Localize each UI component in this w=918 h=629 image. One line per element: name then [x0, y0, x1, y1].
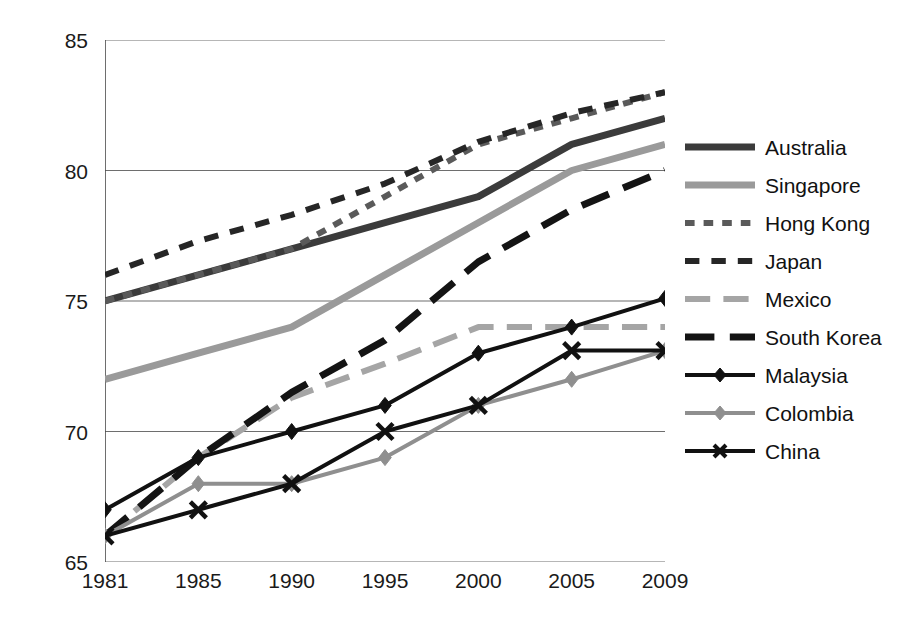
plot-svg — [105, 40, 665, 562]
legend-item-hong-kong[interactable]: Hong Kong — [683, 204, 918, 242]
x-tick-label: 1995 — [362, 570, 409, 591]
y-axis: 8580757065 — [28, 40, 88, 562]
legend-swatch-icon — [683, 442, 757, 460]
legend-item-label: Japan — [765, 251, 822, 272]
y-tick-label: 65 — [30, 552, 88, 573]
x-tick-label: 2000 — [455, 570, 502, 591]
data-point-marker — [285, 424, 297, 440]
legend-item-label: Hong Kong — [765, 213, 870, 234]
x-tick-label: 2009 — [642, 570, 689, 591]
y-tick-label: 80 — [30, 160, 88, 181]
chart-root: 8580757065 1981198519901995200020052009 … — [0, 0, 918, 629]
x-tick-label: 1981 — [82, 570, 129, 591]
legend-item-colombia[interactable]: Colombia — [683, 394, 918, 432]
legend-item-label: Mexico — [765, 289, 832, 310]
data-point-marker — [192, 476, 204, 492]
data-point-marker — [659, 290, 665, 306]
plot-area — [105, 40, 665, 562]
legend-item-label: China — [765, 441, 820, 462]
legend-item-label: Malaysia — [765, 365, 848, 386]
legend-item-malaysia[interactable]: Malaysia — [683, 356, 918, 394]
y-tick-label: 70 — [30, 421, 88, 442]
x-tick-label: 2005 — [548, 570, 595, 591]
legend-item-china[interactable]: China — [683, 432, 918, 470]
legend-swatch-icon — [683, 328, 757, 346]
legend-item-south-korea[interactable]: South Korea — [683, 318, 918, 356]
legend-swatch-icon — [683, 214, 757, 232]
y-tick-label: 85 — [30, 30, 88, 51]
legend-item-label: Colombia — [765, 403, 854, 424]
series-line — [105, 351, 665, 536]
chart-legend: AustraliaSingaporeHong KongJapanMexicoSo… — [683, 128, 918, 470]
data-point-marker — [565, 319, 577, 335]
legend-item-label: South Korea — [765, 327, 882, 348]
legend-item-australia[interactable]: Australia — [683, 128, 918, 166]
data-point-marker — [379, 450, 391, 466]
legend-item-japan[interactable]: Japan — [683, 242, 918, 280]
data-point-marker — [472, 345, 484, 361]
data-point-marker — [565, 371, 577, 387]
legend-swatch-icon — [683, 176, 757, 194]
data-point-marker — [379, 397, 391, 413]
legend-item-label: Singapore — [765, 175, 861, 196]
legend-swatch-icon — [683, 252, 757, 270]
series-line — [105, 92, 665, 275]
data-point-marker — [105, 502, 111, 518]
legend-item-mexico[interactable]: Mexico — [683, 280, 918, 318]
legend-swatch-icon — [683, 138, 757, 156]
x-axis: 1981198519901995200020052009 — [105, 570, 665, 600]
series-line — [105, 92, 665, 301]
legend-item-singapore[interactable]: Singapore — [683, 166, 918, 204]
legend-item-label: Australia — [765, 137, 847, 158]
legend-swatch-icon — [683, 290, 757, 308]
x-tick-label: 1985 — [175, 570, 222, 591]
legend-swatch-icon — [683, 404, 757, 422]
y-tick-label: 75 — [30, 291, 88, 312]
x-tick-label: 1990 — [268, 570, 315, 591]
legend-swatch-icon — [683, 366, 757, 384]
